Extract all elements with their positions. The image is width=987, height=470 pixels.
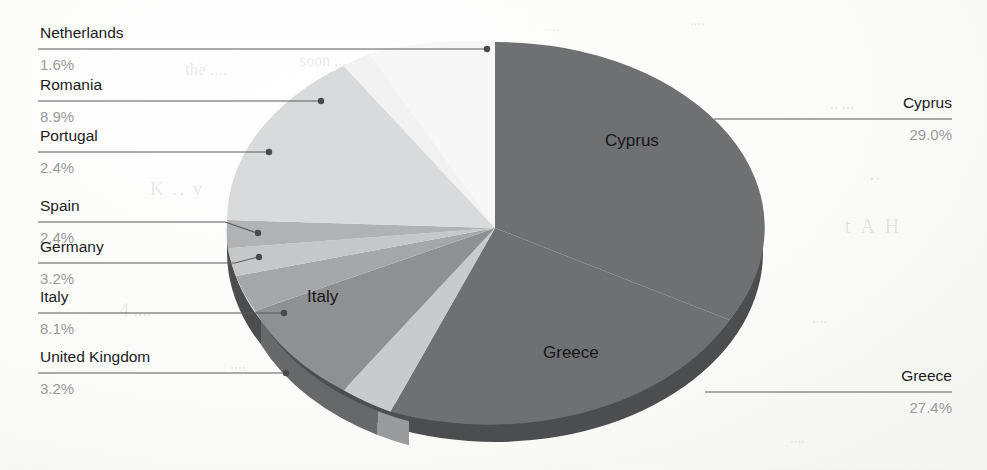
- callout-label-portugal: Portugal: [40, 127, 98, 144]
- callout-percent-portugal: 2.4%: [40, 159, 74, 176]
- leader-dot-spain: [255, 230, 261, 236]
- callout-percent-romania: 8.9%: [40, 108, 74, 125]
- callout-percent-cyprus: 29.0%: [909, 126, 952, 143]
- callout-percent-germany: 3.2%: [40, 270, 74, 287]
- leader-dot-portugal: [266, 149, 272, 155]
- leader-dot-romania: [318, 98, 324, 104]
- callout-percent-united-kingdom: 3.2%: [40, 380, 74, 397]
- callout-percent-italy: 8.1%: [40, 320, 74, 337]
- leader-dot-united-kingdom: [283, 370, 289, 376]
- callout-label-greece: Greece: [901, 367, 952, 384]
- callout-label-netherlands: Netherlands: [40, 24, 124, 41]
- leader-dot-netherlands: [484, 46, 490, 52]
- leader-line-germany: [38, 257, 258, 263]
- callout-percent-greece: 27.4%: [909, 399, 952, 416]
- slice-inner-label-italy: Italy: [307, 287, 339, 306]
- callout-label-germany: Germany: [40, 238, 104, 255]
- leader-dot-germany: [256, 254, 262, 260]
- callout-percent-netherlands: 1.6%: [40, 56, 74, 73]
- callout-label-romania: Romania: [40, 76, 102, 93]
- leader-dot-italy: [281, 310, 287, 316]
- chart-canvas: the .... soon .... .... .... K .. y in .…: [0, 0, 987, 470]
- callout-label-italy: Italy: [40, 288, 69, 305]
- pie-chart-svg: Netherlands 1.6% Romania 8.9% Portugal 2…: [0, 0, 987, 470]
- slice-inner-label-cyprus: Cyprus: [605, 131, 659, 150]
- callout-label-cyprus: Cyprus: [903, 94, 952, 111]
- callout-label-united-kingdom: United Kingdom: [40, 348, 150, 365]
- slice-inner-label-greece: Greece: [543, 343, 599, 362]
- callout-label-spain: Spain: [40, 197, 80, 214]
